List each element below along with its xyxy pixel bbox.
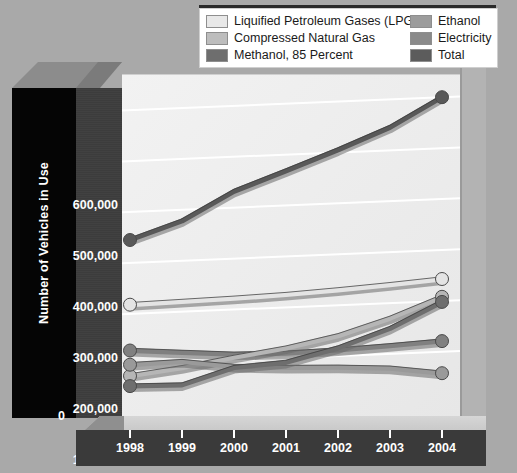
legend-item[interactable]: Compressed Natural Gas [206,30,406,47]
series-data-marker[interactable] [436,367,449,380]
series-data-marker[interactable] [124,344,137,357]
series-data-marker[interactable] [124,234,137,247]
legend-column-right: EthanolElectricityTotal [410,13,496,64]
y-axis-tick-label: 300,000 [73,351,118,365]
legend-swatch-icon [206,32,228,45]
x-axis-tick-label: 2004 [428,441,456,455]
x-axis-tick-mark [285,430,287,438]
y-axis-tick-label: 500,000 [73,249,118,263]
x-axis-tick-mark [129,430,131,438]
series-data-marker[interactable] [124,298,137,311]
y-axis-tick-label: 200,000 [73,402,118,416]
legend-swatch-icon [206,49,228,62]
y-axis-tick-zero: 0 [58,409,65,423]
series-data-marker[interactable] [124,358,137,371]
series-lines [122,75,460,418]
y-axis-title-block: Number of Vehicles in Use [12,88,76,418]
x-axis-tick-mark [441,430,443,438]
series-data-marker[interactable] [436,273,449,286]
legend-column-left: Liquified Petroleum Gases (LPG)Compresse… [206,13,406,64]
legend-item[interactable]: Liquified Petroleum Gases (LPG) [206,13,406,30]
legend-item[interactable]: Total [410,47,496,64]
legend-label: Electricity [438,32,491,45]
series-data-marker[interactable] [436,295,449,308]
series-line[interactable] [130,279,442,305]
plot-area [122,75,460,418]
x-axis-tick-mark [389,430,391,438]
x-axis-tick-mark [181,430,183,438]
legend-swatch-icon [206,15,228,28]
x-axis-tick-mark [233,430,235,438]
y-axis-tick-label: 600,000 [73,198,118,212]
legend-label: Compressed Natural Gas [234,32,375,45]
legend-item[interactable]: Ethanol [410,13,496,30]
x-axis-tick-label: 2002 [324,441,352,455]
x-axis-tick-label: 2001 [272,441,300,455]
legend-label: Liquified Petroleum Gases (LPG) [234,15,417,28]
plot-right-wall-edge [460,62,462,418]
series-line-edge [130,95,442,238]
legend-label: Methanol, 85 Percent [234,49,353,62]
x-axis-tick-label: 2000 [220,441,248,455]
legend-item[interactable]: Electricity [410,30,496,47]
x-axis-tick-mark [337,430,339,438]
series-data-marker[interactable] [436,91,449,104]
legend-item[interactable]: Methanol, 85 Percent [206,47,406,64]
legend-swatch-icon [410,32,432,45]
series-data-marker[interactable] [436,335,449,348]
legend-swatch-icon [410,49,432,62]
legend: Liquified Petroleum Gases (LPG)Compresse… [199,8,498,68]
x-axis-tick-label: 1998 [116,441,144,455]
legend-label: Total [438,49,464,62]
x-axis-tick-label: 2003 [376,441,404,455]
x-axis-tick-label: 1999 [168,441,196,455]
plot-right-wall [460,62,486,418]
legend-label: Ethanol [438,15,480,28]
legend-swatch-icon [410,15,432,28]
y-axis-tick-label: 400,000 [73,300,118,314]
y-axis-title: Number of Vehicles in Use [37,93,51,393]
chart-root: Number of Vehicles in Use 100,000200,000… [0,0,517,473]
series-data-marker[interactable] [124,380,137,393]
y-axis-tick-wall: 100,000200,000300,000400,000500,000600,0… [76,88,122,418]
